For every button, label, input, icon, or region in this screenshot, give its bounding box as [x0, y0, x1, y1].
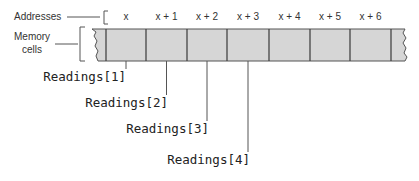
addresses-bracket: [104, 11, 108, 24]
memory-strip: [92, 29, 407, 61]
reading-label: Readings[2]: [85, 95, 168, 110]
reading-label: Readings[3]: [126, 121, 209, 136]
reading-label: Readings[1]: [43, 69, 126, 84]
memory-cells-bracket: [80, 27, 85, 61]
address-label: x + 3: [237, 11, 259, 22]
address-label: x + 1: [156, 11, 178, 22]
memory-diagram: Addresses Memory cells xx + 1x + 2x + 3x…: [0, 0, 419, 181]
address-label: x + 5: [319, 11, 341, 22]
address-label: x + 6: [360, 11, 382, 22]
memory-cells-label-line2: cells: [22, 44, 42, 55]
addresses-label: Addresses: [14, 11, 61, 22]
address-label: x: [124, 11, 129, 22]
reading-label: Readings[4]: [167, 152, 250, 167]
address-label: x + 4: [279, 11, 301, 22]
address-label: x + 2: [196, 11, 218, 22]
memory-cells-label-line1: Memory: [14, 31, 50, 42]
